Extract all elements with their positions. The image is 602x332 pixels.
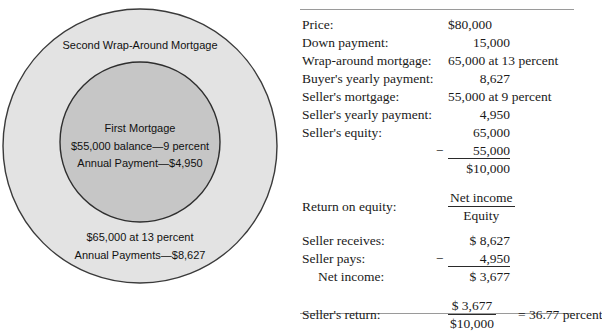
equity-total: $10,000	[448, 160, 510, 178]
sellers-return-fraction: $ 3,677 $10,000	[448, 297, 496, 332]
row-value: 8,627	[448, 70, 510, 88]
row-value: 15,000	[448, 34, 510, 52]
table-row: Seller pays: − 4,950	[296, 250, 582, 268]
row-label: Down payment:	[302, 34, 389, 52]
table-row: Seller's yearly payment: 4,950	[296, 106, 582, 124]
row-value: $80,000	[448, 16, 492, 34]
table-rows: Price: $80,000 Down payment: 15,000 Wrap…	[296, 16, 582, 332]
row-label: Seller's return:	[302, 306, 381, 324]
table-top-rule	[300, 9, 574, 10]
outer-circle-label: Second Wrap-Around Mortgage	[62, 39, 217, 51]
equity-total-row: $10,000	[296, 160, 582, 178]
equity-subtraction-row: − 55,000	[296, 142, 582, 160]
row-label: Return on equity:	[302, 198, 397, 216]
row-value: 65,000 at 13 percent	[448, 52, 558, 70]
row-label: Seller receives:	[302, 232, 385, 250]
equity-subtrahend: 55,000	[448, 142, 510, 159]
spacer	[296, 178, 582, 190]
spacer	[296, 224, 582, 232]
outer-circle-bottom-line-1: $65,000 at 13 percent	[86, 231, 193, 243]
row-value: 4,950	[448, 250, 510, 267]
sellers-return-result: = 36.77 percent	[518, 306, 602, 324]
row-value: 55,000 at 9 percent	[448, 88, 551, 106]
row-label: Seller's yearly payment:	[302, 106, 432, 124]
table-row: Seller's mortgage: 55,000 at 9 percent	[296, 88, 582, 106]
row-label: Net income:	[318, 268, 384, 286]
row-label: Wrap-around mortgage:	[302, 52, 432, 70]
fraction-numerator: Net income	[448, 189, 515, 207]
minus-sign: −	[436, 250, 444, 268]
outer-circle-bottom-line-2: Annual Payments—$8,627	[75, 249, 206, 261]
row-label: Buyer's yearly payment:	[302, 70, 433, 88]
inner-circle-line-3: Annual Payment—$4,950	[77, 157, 202, 169]
diagram-svg: Second Wrap-Around Mortgage First Mortga…	[0, 0, 288, 326]
table-row: Buyer's yearly payment: 8,627	[296, 70, 582, 88]
return-on-equity-row: Return on equity: Net income Equity	[296, 190, 582, 224]
mortgage-figures-table: Price: $80,000 Down payment: 15,000 Wrap…	[296, 0, 582, 326]
row-label: Price:	[302, 16, 334, 34]
table-row: Seller receives: $ 8,627	[296, 232, 582, 250]
wrap-around-mortgage-diagram: Second Wrap-Around Mortgage First Mortga…	[0, 0, 288, 326]
minus-sign: −	[436, 142, 444, 160]
spacer	[296, 286, 582, 298]
return-on-equity-fraction: Net income Equity	[448, 189, 515, 224]
sellers-return-row: Seller's return: $ 3,677 $10,000 = 36.77…	[296, 298, 582, 332]
fraction-denominator: Equity	[448, 207, 515, 224]
table-row: Down payment: 15,000	[296, 34, 582, 52]
row-value: 65,000	[448, 124, 510, 142]
fraction-numerator: $ 3,677	[448, 297, 496, 315]
row-label: Seller's mortgage:	[302, 88, 399, 106]
net-income-row: Net income: $ 3,677	[296, 268, 582, 286]
row-label: Seller pays:	[302, 250, 365, 268]
table-row: Price: $80,000	[296, 16, 582, 34]
fraction-denominator: $10,000	[448, 315, 496, 332]
row-label: Seller's equity:	[302, 124, 382, 142]
inner-circle-line-1: First Mortgage	[105, 122, 176, 134]
table-row: Wrap-around mortgage: 65,000 at 13 perce…	[296, 52, 582, 70]
row-value: $ 8,627	[448, 232, 510, 250]
table-row: Seller's equity: 65,000	[296, 124, 582, 142]
inner-circle-line-2: $55,000 balance—9 percent	[71, 140, 209, 152]
row-value: $ 3,677	[448, 268, 510, 286]
row-value: 4,950	[448, 106, 510, 124]
